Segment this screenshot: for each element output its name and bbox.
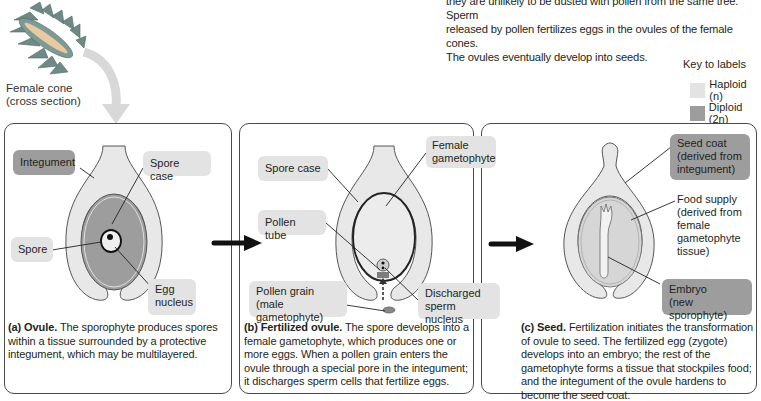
caption-b-title: (b) Fertilized ovule. xyxy=(244,321,342,333)
embryo-line-1: Embryo xyxy=(669,283,745,296)
label-female-gametophyte: Female gametophyte xyxy=(426,136,496,168)
label-pollen-tube: Pollen tube xyxy=(258,210,326,235)
egg-nucleus-line-1: Egg xyxy=(155,283,189,296)
seed-coat-line-1: Seed coat xyxy=(677,137,743,150)
female-gametophyte-line-1: Female xyxy=(432,139,490,152)
caption-a: (a) Ovule. The sporophyte produces spore… xyxy=(8,321,228,362)
label-seed-coat: Seed coat (derived from integument) xyxy=(670,134,750,180)
label-discharged-sperm-nucleus: Discharged sperm nucleus xyxy=(418,283,500,319)
food-supply-line-4: gametophyte xyxy=(677,232,757,245)
embryo-line-2: (new sporophyte) xyxy=(669,296,745,322)
seed-coat-line-2: (derived from xyxy=(677,150,743,163)
caption-a-title: (a) Ovule. xyxy=(8,321,57,333)
label-spore-case-b: Spore case xyxy=(258,156,328,181)
caption-c: (c) Seed. Fertilization initiates the tr… xyxy=(521,321,757,401)
egg-nucleus-line-2: nucleus xyxy=(155,296,189,309)
food-supply-line-2: (derived from xyxy=(677,206,757,219)
label-pollen-grain: Pollen grain (male gametophyte) xyxy=(249,281,347,317)
food-supply-line-1: Food supply xyxy=(677,193,757,206)
seed-coat-line-3: integument) xyxy=(677,163,743,176)
label-spore-case-a: Spore case xyxy=(143,151,211,176)
label-integument: Integument xyxy=(13,150,75,175)
arrow-b-to-c-icon xyxy=(491,236,534,252)
label-embryo: Embryo (new sporophyte) xyxy=(662,279,752,315)
caption-c-title: (c) Seed. xyxy=(521,321,566,333)
female-gametophyte-line-2: gametophyte xyxy=(432,152,490,165)
label-spore: Spore xyxy=(11,237,53,262)
label-food-supply: Food supply (derived from female gametop… xyxy=(677,193,757,258)
food-supply-line-5: tissue) xyxy=(677,245,757,258)
arrow-a-to-b-icon xyxy=(214,235,262,251)
label-egg-nucleus: Egg nucleus xyxy=(148,279,196,315)
caption-b: (b) Fertilized ovule. The spore develops… xyxy=(244,321,472,389)
pollen-grain-line-1: Pollen grain (male xyxy=(256,285,340,311)
food-supply-line-3: female xyxy=(677,219,757,232)
seed-c-icon xyxy=(564,143,675,298)
discharged-line-1: Discharged xyxy=(425,287,493,300)
